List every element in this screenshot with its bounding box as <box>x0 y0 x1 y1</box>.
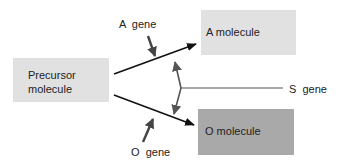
o-molecule-label: O molecule <box>205 125 261 137</box>
s-gene-label: S gene <box>289 83 327 96</box>
o-gene-arrow-icon <box>143 119 153 142</box>
o-gene-label: O gene <box>131 146 170 159</box>
a-gene-arrow-icon <box>148 36 155 56</box>
o-molecule-box: O molecule <box>198 109 294 155</box>
a-molecule-box: A molecule <box>201 10 296 55</box>
arrow-precursor-to-o <box>114 95 194 125</box>
precursor-label-line2: molecule <box>28 82 109 96</box>
a-molecule-label: A molecule <box>206 26 260 38</box>
precursor-molecule-box: Precursor molecule <box>13 58 109 102</box>
a-gene-label: A gene <box>119 18 156 31</box>
s-gene-connector <box>174 62 283 114</box>
arrow-precursor-to-a <box>114 44 196 74</box>
precursor-label-line1: Precursor <box>28 68 109 82</box>
